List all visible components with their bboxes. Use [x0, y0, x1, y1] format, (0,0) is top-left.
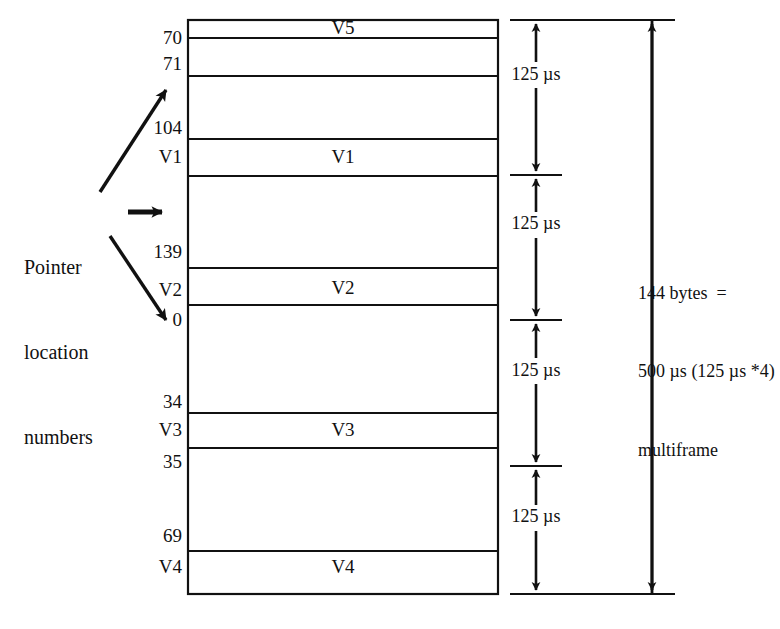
- frame-column-outline: [188, 20, 498, 594]
- timing-label-segment-2: 125 µs: [481, 213, 591, 234]
- multiframe-annotation: 144 bytes = 500 µs (125 µs *4) multifram…: [638, 228, 780, 515]
- frame-row-label-v1: V1: [283, 146, 403, 168]
- multiframe-line-1: 144 bytes =: [638, 280, 780, 306]
- pointer-number-v2: V2: [124, 279, 182, 301]
- frame-row-label-v3: V3: [283, 419, 403, 441]
- pointer-number-104: 104: [124, 117, 182, 139]
- pointer-number-35: 35: [124, 451, 182, 473]
- pointer-number-71: 71: [124, 53, 182, 75]
- pointer-number-v3: V3: [124, 419, 182, 441]
- pointer-number-70: 70: [124, 27, 182, 49]
- diagram-root: Pointer location numbers 70 71 104 V1 13…: [0, 0, 780, 629]
- timing-label-segment-1: 125 µs: [481, 64, 591, 85]
- pointer-number-69: 69: [124, 525, 182, 547]
- frame-row-label-v4: V4: [283, 556, 403, 578]
- pointer-number-139: 139: [124, 241, 182, 263]
- pointer-number-0: 0: [124, 309, 182, 331]
- pointer-number-34: 34: [124, 391, 182, 413]
- pointer-number-v1: V1: [124, 146, 182, 168]
- timing-label-segment-4: 125 µs: [481, 506, 591, 527]
- multiframe-line-3: multiframe: [638, 437, 780, 463]
- multiframe-line-2: 500 µs (125 µs *4): [638, 358, 780, 384]
- frame-row-label-v2: V2: [283, 277, 403, 299]
- timing-label-segment-3: 125 µs: [481, 360, 591, 381]
- frame-row-label-v5: V5: [283, 17, 403, 39]
- pointer-number-v4: V4: [124, 556, 182, 578]
- pointer-label-line-2: location: [24, 338, 154, 366]
